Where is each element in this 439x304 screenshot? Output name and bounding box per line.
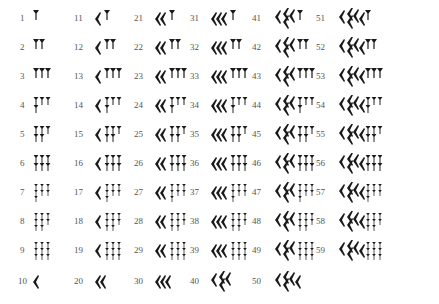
numeral-label: 37 xyxy=(190,187,208,197)
numeral-label: 35 xyxy=(190,129,208,139)
cuneiform-glyph-icon xyxy=(94,124,124,150)
cuneiform-numeral-table: 1234567891011121314151617181920212223242… xyxy=(0,0,439,304)
numeral-label: 59 xyxy=(316,245,334,255)
numeral-label: 29 xyxy=(134,245,152,255)
numeral-label: 18 xyxy=(74,216,92,226)
numeral-label: 57 xyxy=(316,187,334,197)
cuneiform-glyph-icon xyxy=(210,95,250,121)
numeral-label: 41 xyxy=(252,13,270,23)
numeral-label: 56 xyxy=(316,158,334,168)
cuneiform-glyph-icon xyxy=(94,95,124,121)
cuneiform-glyph-icon xyxy=(154,37,189,63)
numeral-label: 22 xyxy=(134,42,152,52)
cuneiform-glyph-icon xyxy=(32,124,53,150)
cuneiform-glyph-icon xyxy=(210,66,250,92)
cuneiform-glyph-icon xyxy=(94,153,124,179)
numeral-label: 47 xyxy=(252,187,270,197)
cuneiform-glyph-icon xyxy=(32,153,53,179)
cuneiform-glyph-icon xyxy=(94,37,124,63)
numeral-label: 36 xyxy=(190,158,208,168)
cuneiform-glyph-icon xyxy=(338,37,385,63)
cuneiform-glyph-icon xyxy=(338,153,385,179)
numeral-label: 21 xyxy=(134,13,152,23)
cuneiform-glyph-icon xyxy=(338,8,385,34)
numeral-label: 23 xyxy=(134,71,152,81)
numeral-label: 52 xyxy=(316,42,334,52)
cuneiform-glyph-icon xyxy=(210,271,235,297)
numeral-label: 44 xyxy=(252,100,270,110)
cuneiform-glyph-icon xyxy=(210,182,250,208)
cuneiform-glyph-icon xyxy=(338,66,385,92)
numeral-label: 51 xyxy=(316,13,334,23)
cuneiform-glyph-icon xyxy=(154,95,189,121)
numeral-label: 43 xyxy=(252,71,270,81)
cuneiform-glyph-icon xyxy=(274,124,317,150)
cuneiform-glyph-icon xyxy=(274,211,317,237)
numeral-label: 38 xyxy=(190,216,208,226)
cuneiform-glyph-icon xyxy=(274,153,317,179)
cuneiform-glyph-icon xyxy=(32,182,53,208)
cuneiform-glyph-icon xyxy=(32,240,53,266)
cuneiform-glyph-icon xyxy=(32,66,53,92)
numeral-label: 14 xyxy=(74,100,92,110)
cuneiform-glyph-icon xyxy=(154,240,189,266)
cuneiform-glyph-icon xyxy=(274,240,317,266)
cuneiform-glyph-icon xyxy=(210,124,250,150)
cuneiform-glyph-icon xyxy=(32,211,53,237)
cuneiform-glyph-icon xyxy=(32,95,53,121)
numeral-label: 40 xyxy=(190,276,208,286)
cuneiform-glyph-icon xyxy=(154,153,189,179)
numeral-label: 16 xyxy=(74,158,92,168)
numeral-label: 27 xyxy=(134,187,152,197)
numeral-label: 32 xyxy=(190,42,208,52)
numeral-label: 42 xyxy=(252,42,270,52)
numeral-label: 31 xyxy=(190,13,208,23)
numeral-label: 26 xyxy=(134,158,152,168)
cuneiform-glyph-icon xyxy=(32,37,53,63)
cuneiform-glyph-icon xyxy=(94,182,124,208)
cuneiform-glyph-icon xyxy=(154,66,189,92)
cuneiform-glyph-icon xyxy=(210,8,250,34)
numeral-label: 53 xyxy=(316,71,334,81)
cuneiform-glyph-icon xyxy=(274,37,317,63)
cuneiform-glyph-icon xyxy=(32,8,53,34)
cuneiform-glyph-icon xyxy=(94,211,124,237)
numeral-label: 19 xyxy=(74,245,92,255)
cuneiform-glyph-icon xyxy=(154,182,189,208)
numeral-label: 13 xyxy=(74,71,92,81)
numeral-label: 15 xyxy=(74,129,92,139)
cuneiform-glyph-icon xyxy=(94,240,124,266)
cuneiform-glyph-icon xyxy=(154,8,189,34)
numeral-label: 25 xyxy=(134,129,152,139)
numeral-label: 28 xyxy=(134,216,152,226)
cuneiform-glyph-icon xyxy=(274,271,303,297)
numeral-label: 12 xyxy=(74,42,92,52)
numeral-label: 49 xyxy=(252,245,270,255)
numeral-label: 34 xyxy=(190,100,208,110)
cuneiform-glyph-icon xyxy=(154,211,189,237)
cuneiform-glyph-icon xyxy=(338,124,385,150)
numeral-label: 11 xyxy=(74,13,92,23)
cuneiform-glyph-icon xyxy=(274,95,317,121)
numeral-label: 17 xyxy=(74,187,92,197)
cuneiform-glyph-icon xyxy=(154,124,189,150)
cuneiform-glyph-icon xyxy=(94,8,124,34)
numeral-label: 46 xyxy=(252,158,270,168)
numeral-label: 55 xyxy=(316,129,334,139)
numeral-label: 45 xyxy=(252,129,270,139)
numeral-label: 24 xyxy=(134,100,152,110)
cuneiform-glyph-icon xyxy=(32,271,44,297)
cuneiform-glyph-icon xyxy=(338,182,385,208)
numeral-label: 30 xyxy=(134,276,152,286)
cuneiform-glyph-icon xyxy=(94,271,111,297)
cuneiform-glyph-icon xyxy=(210,37,250,63)
numeral-label: 20 xyxy=(74,276,92,286)
numeral-label: 58 xyxy=(316,216,334,226)
cuneiform-glyph-icon xyxy=(210,211,250,237)
numeral-label: 33 xyxy=(190,71,208,81)
cuneiform-glyph-icon xyxy=(274,66,317,92)
cuneiform-glyph-icon xyxy=(210,153,250,179)
numeral-label: 54 xyxy=(316,100,334,110)
cuneiform-glyph-icon xyxy=(210,240,250,266)
cuneiform-glyph-icon xyxy=(274,182,317,208)
